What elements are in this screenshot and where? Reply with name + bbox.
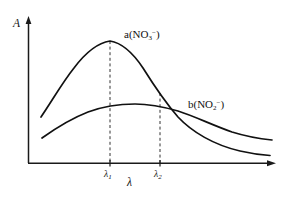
- curve-a-label-close: ): [156, 28, 160, 41]
- chart-canvas: A λ λ1 λ2 a(NO3−) b(NO2−): [0, 0, 288, 197]
- curve-b-label-base: b(NO: [188, 98, 213, 111]
- absorbance-spectrum-figure: A λ λ1 λ2 a(NO3−) b(NO2−): [0, 0, 288, 197]
- y-axis-label: A: [12, 17, 21, 29]
- x-axis-label: λ: [126, 176, 132, 188]
- lambda2-subscript: 2: [158, 173, 162, 181]
- lambda1-subscript: 1: [108, 173, 112, 181]
- curve-b-label-close: ): [221, 98, 225, 111]
- curve-a-label-base: a(NO: [124, 28, 148, 41]
